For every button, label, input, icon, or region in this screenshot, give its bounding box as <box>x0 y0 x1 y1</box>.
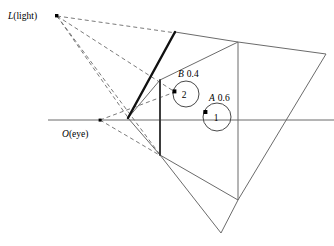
inner-edge-top-right <box>160 42 238 80</box>
label-surface-b-name: B <box>178 69 184 79</box>
light-ray-to-wall-top <box>57 16 176 33</box>
a-sample-point-marker <box>203 110 207 114</box>
light-ray-to-left-vertex <box>57 16 129 119</box>
optics-diagram-figure: L(light) O(eye) B0.4 A0.6 2 1 <box>0 0 334 246</box>
label-surface-a-value: 0.6 <box>218 93 230 103</box>
inner-edge-bottom <box>160 155 238 200</box>
label-surface-b: B0.4 <box>178 69 199 79</box>
diagram-canvas: L(light) O(eye) B0.4 A0.6 2 1 <box>0 0 334 246</box>
label-surface-b-value: 0.4 <box>187 69 199 79</box>
label-light-rest: (light) <box>13 11 37 22</box>
label-surface-a: A0.6 <box>208 93 230 103</box>
b-sample-point-marker <box>172 89 176 93</box>
light-source-point-marker <box>55 14 58 17</box>
occluder-wall-thick <box>128 32 175 118</box>
label-eye-rest: (eye) <box>69 129 89 140</box>
circle-b-number: 2 <box>182 90 187 100</box>
label-surface-a-name: A <box>208 93 215 103</box>
eye-point-marker <box>99 119 102 122</box>
circle-a-number: 1 <box>214 113 219 123</box>
label-eye: O(eye) <box>62 129 88 140</box>
light-ray-to-b-point <box>57 16 175 92</box>
eye-ray-to-bottom-vertex <box>100 120 161 156</box>
label-light: L(light) <box>7 11 37 22</box>
